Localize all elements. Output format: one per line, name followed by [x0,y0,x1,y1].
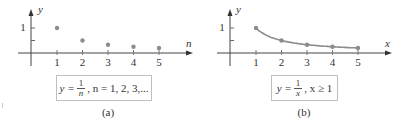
x-tick-label: 5 [355,56,361,68]
data-point [106,42,110,46]
data-point [330,45,334,49]
formula-lhs: y = [60,82,75,94]
formula-lhs: y = [277,82,292,94]
y-tick-label: 1 [219,21,225,33]
formula-rest: , n = 1, 2, 3,... [87,82,148,94]
y-tick-label: 1 [20,21,26,33]
formula-rest: , x ≥ 1 [304,82,332,94]
formula-box: y = 1 n , n = 1, 2, 3,... [56,75,152,101]
data-point [254,26,258,30]
x-tick-label: 3 [304,56,310,68]
fraction-numerator: 1 [294,79,303,89]
data-point [55,26,59,30]
fraction: 1 x [294,79,303,98]
fraction-numerator: 1 [77,79,86,89]
x-tick-label: 2 [279,56,285,68]
x-tick-label: 2 [80,56,86,68]
x-tick-label: 4 [131,56,137,68]
data-point [80,38,84,42]
chart-a-plot [0,0,203,122]
caption-b: (b) [298,106,311,118]
formula-box: y = 1 x , x ≥ 1 [271,75,338,101]
x-tick-label: 1 [253,56,259,68]
x-tick-label: 3 [105,56,111,68]
x-axis-label: x [385,37,390,49]
data-point [356,46,360,50]
panel-b: y x 1 1 2 3 4 5 y = 1 x , x ≥ 1 (b) [203,0,406,122]
data-point [279,38,283,42]
fraction-denominator: x [296,89,300,98]
fraction: 1 n [77,79,86,98]
data-point [131,45,135,49]
y-axis-label: y [38,3,43,15]
x-tick-label: 1 [54,56,60,68]
data-point [305,42,309,46]
y-axis-label: y [236,3,241,15]
x-axis-label: n [186,37,192,49]
panel-a: y n 1 1 2 3 4 5 y = 1 n , n = 1, 2, 3,..… [0,0,203,122]
data-point [157,46,161,50]
x-tick-label: 4 [330,56,336,68]
x-tick-label: 5 [156,56,162,68]
caption-a: (a) [102,106,114,118]
fraction-denominator: n [79,89,84,98]
